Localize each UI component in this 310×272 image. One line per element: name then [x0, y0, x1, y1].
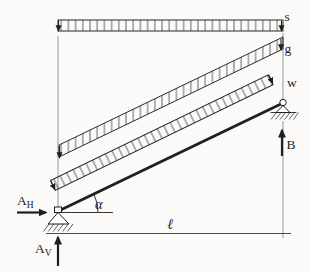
- pin-support-triangle: [48, 213, 69, 225]
- load-s-label: s: [285, 9, 290, 24]
- pin-plate: [55, 207, 62, 213]
- reaction-av-label: AV: [35, 241, 52, 258]
- diagram-canvas: s g w B AH AV α ℓ: [0, 0, 310, 272]
- roller-support-hatching: [271, 113, 299, 120]
- load-g-label: g: [285, 41, 292, 56]
- roller-pin-circle: [280, 99, 286, 105]
- beam-statics-diagram: s g w B AH AV α ℓ: [0, 0, 310, 272]
- angle-alpha-label: α: [95, 196, 103, 212]
- load-w-label: w: [287, 75, 297, 90]
- pin-support-hatching: [44, 224, 74, 232]
- distributed-load-g: [59, 37, 283, 158]
- reaction-b-label: B: [287, 137, 296, 152]
- load-s-band: [58, 20, 283, 31]
- beam: [58, 103, 285, 212]
- span-length-label: ℓ: [167, 216, 173, 232]
- roller-support: [271, 99, 299, 119]
- load-g-band: [59, 37, 283, 157]
- pin-support: [44, 207, 74, 232]
- reaction-ah-label: AH: [17, 193, 34, 210]
- distributed-load-s: [58, 20, 283, 31]
